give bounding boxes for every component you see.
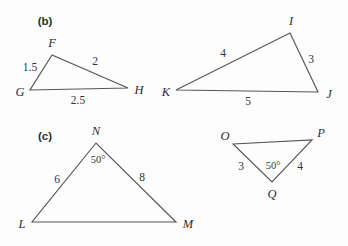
side-length-OPQ-OQ: 3 — [238, 161, 244, 173]
vertex-label-K: K — [162, 86, 170, 99]
vertex-label-I: I — [289, 15, 293, 28]
vertex-label-N: N — [92, 125, 100, 138]
angle-measure-LMN-N: 50° — [91, 155, 106, 166]
side-length-FGH-FG: 1.5 — [23, 62, 37, 74]
vertex-label-P: P — [317, 127, 325, 140]
vertex-label-O: O — [220, 130, 229, 143]
vertex-label-H: H — [134, 84, 143, 97]
triangle-FGH — [30, 55, 128, 90]
vertex-label-M: M — [183, 218, 193, 231]
side-length-FGH-GH: 2.5 — [71, 95, 85, 107]
side-length-FGH-FH: 2 — [92, 56, 98, 68]
side-length-IJK-KJ: 5 — [245, 96, 251, 108]
triangle-IJK — [176, 33, 318, 92]
vertex-label-Q: Q — [267, 188, 276, 201]
side-length-IJK-IJ: 3 — [308, 54, 314, 66]
geometry-figure: (b)(c)FGH1.522.5IJK435NLM6850°OPQ3450° — [0, 0, 348, 246]
angle-measure-OPQ-Q: 50° — [266, 161, 281, 172]
part-label-b: (b) — [38, 16, 53, 28]
vertex-label-F: F — [48, 37, 56, 50]
side-length-LMN-LN: 6 — [54, 174, 60, 186]
vertex-label-J: J — [326, 88, 332, 101]
vertex-label-L: L — [19, 218, 26, 231]
part-label-c: (c) — [38, 131, 52, 143]
side-length-LMN-NM: 8 — [139, 172, 145, 184]
side-length-OPQ-QP: 4 — [297, 161, 303, 173]
side-length-IJK-KI: 4 — [220, 48, 226, 60]
vertex-label-G: G — [15, 86, 24, 99]
